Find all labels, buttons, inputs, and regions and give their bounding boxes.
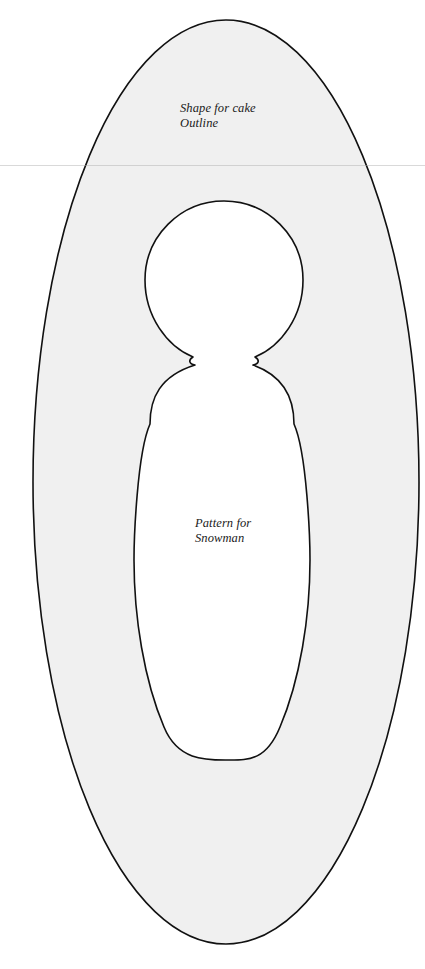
scanned-page: Shape for cake Outline Pattern for Snowm… xyxy=(0,0,425,969)
pattern-artwork xyxy=(0,0,425,969)
caption-pattern-for-snowman: Pattern for Snowman xyxy=(195,516,251,547)
snowman-cutout-path xyxy=(134,201,310,760)
caption-shape-for-cake-outline: Shape for cake Outline xyxy=(180,101,256,132)
